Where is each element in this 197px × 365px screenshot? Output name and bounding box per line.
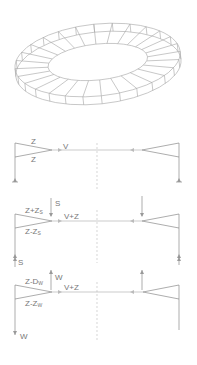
label-wind-reaction: W (20, 333, 28, 341)
label-top-chord: Z (31, 138, 36, 146)
label-tension: V (63, 143, 68, 151)
label-snow-reaction: S (18, 259, 23, 267)
diagram-canvas: Z Z V S Z+ZS Z-ZS V+Z S W Z-DW Z-ZW V+Z … (0, 0, 197, 365)
ring-wireframe (11, 16, 184, 113)
label-top-chord: Z-DW (25, 278, 43, 286)
diagram-wind (13, 257, 181, 340)
structure-drawing (0, 0, 197, 365)
label-bottom-chord: Z-ZW (25, 300, 42, 308)
label-bottom-chord: Z (31, 156, 36, 164)
label-tension: V+Z (64, 284, 79, 292)
label-wind-load: W (55, 274, 63, 282)
label-tension: V+Z (64, 213, 79, 221)
label-snow-load: S (55, 200, 60, 208)
label-top-chord: Z+ZS (25, 207, 43, 215)
label-bottom-chord: Z-ZS (25, 228, 41, 236)
diagram-base (12, 143, 182, 190)
